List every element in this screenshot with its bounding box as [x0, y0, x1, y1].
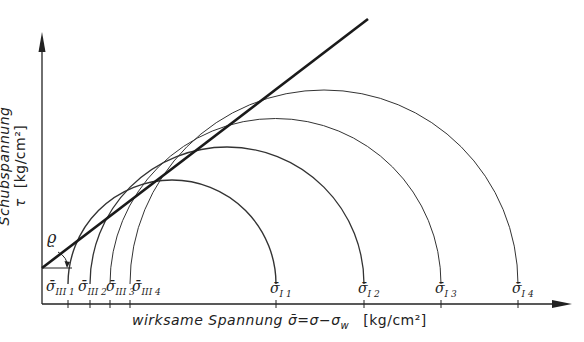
label-sigma-III-2: σ̄III 2 [78, 278, 107, 297]
x-axis-arrow-icon [552, 300, 572, 308]
label-sigma-III-1: σ̄III 1 [46, 278, 75, 297]
circle-1 [68, 180, 276, 284]
mohr-circles [68, 90, 518, 284]
label-sigma-III-3: σ̄III 3 [106, 278, 135, 297]
failure-envelope-line [42, 19, 368, 268]
label-sigma-I-2: σ̄I 2 [358, 280, 380, 299]
label-sigma-III-4: σ̄III 4 [132, 278, 161, 297]
x-axis-title: wirksame Spannung σ̄=σ−σw[kg/cm²] [132, 312, 427, 331]
circle-3 [110, 119, 441, 285]
label-sigma-I-4: σ̄I 4 [512, 280, 534, 299]
y-axis-title: Schubspannung τ[kg/cm²] [0, 66, 28, 266]
label-sigma-I-3: σ̄I 3 [435, 280, 457, 299]
label-sigma-I-1: σ̄I 1 [270, 280, 292, 299]
y-axis-arrow-icon [39, 32, 46, 52]
angle-label-rho: ϱ [47, 228, 56, 247]
